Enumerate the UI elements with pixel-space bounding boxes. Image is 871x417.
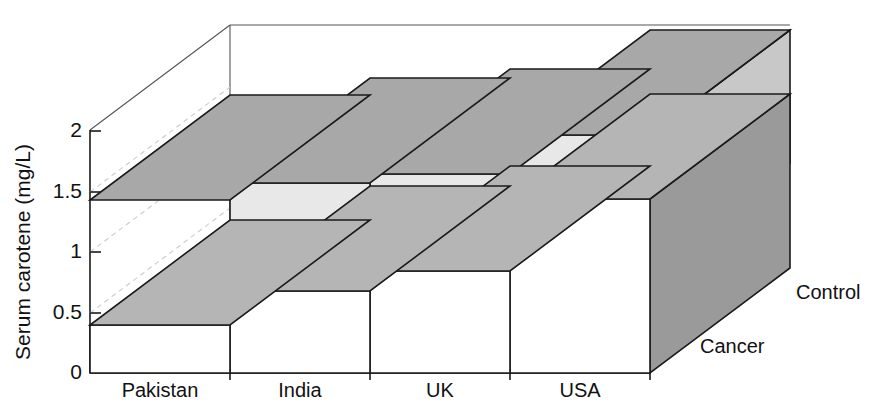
x-tick-label-uk: UK	[426, 379, 454, 401]
y-tick-label-1-5: 1.5	[53, 179, 82, 202]
x-tick-label-pakistan: Pakistan	[122, 379, 199, 401]
bar-cancer-pakistan-front	[90, 325, 230, 373]
x-tick-label-india: India	[278, 379, 322, 401]
y-axis-title: Serum carotene (mg/L)	[11, 144, 34, 360]
series-label-cancer: Cancer	[700, 335, 765, 357]
series-label-control: Control	[796, 281, 860, 303]
y-tick-label-2: 2	[70, 118, 82, 141]
y-tick-label-1: 1	[70, 239, 82, 262]
bar-cancer-uk-front	[370, 271, 510, 373]
bar-chart-3d: 2 1.5 1 0.5 0 Serum carotene (mg/L)	[0, 0, 871, 417]
y-tick-label-0: 0	[70, 360, 82, 383]
chart-container: 2 1.5 1 0.5 0 Serum carotene (mg/L)	[0, 0, 871, 417]
y-tick-label-0-5: 0.5	[53, 300, 82, 323]
x-tick-label-usa: USA	[559, 379, 601, 401]
x-axis-labels: Pakistan India UK USA	[122, 379, 602, 401]
